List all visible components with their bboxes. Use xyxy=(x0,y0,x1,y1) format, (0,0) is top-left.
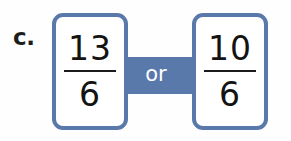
fraction-left-numerator: 13 xyxy=(68,32,112,65)
fraction-comparison-item: c. or 13 6 10 6 xyxy=(0,0,291,141)
fraction-left: 13 6 xyxy=(64,32,116,111)
or-connector-label: or xyxy=(145,64,166,87)
fraction-left-denominator: 6 xyxy=(79,78,101,111)
fraction-right-denominator: 6 xyxy=(219,78,241,111)
item-letter-label: c. xyxy=(13,26,34,49)
or-connector-band: or xyxy=(120,57,192,94)
fraction-card-right[interactable]: 10 6 xyxy=(192,13,268,130)
fraction-card-left[interactable]: 13 6 xyxy=(52,13,128,130)
fraction-right-bar xyxy=(204,70,256,72)
fraction-right-numerator: 10 xyxy=(208,32,252,65)
fraction-left-bar xyxy=(64,70,116,72)
fraction-right: 10 6 xyxy=(204,32,256,111)
